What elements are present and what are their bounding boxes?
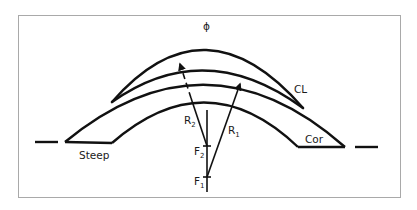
lens-cornea-diagram: ϕ CL Cor Steep R2 R1 F2 F1	[0, 0, 417, 210]
steep-base-line	[65, 142, 112, 143]
radius-2-label: R2	[184, 114, 196, 129]
radius-2-dashed-arrow	[180, 64, 191, 98]
phi-label: ϕ	[203, 20, 210, 32]
focus-1-label: F1	[194, 175, 205, 190]
focus-2-label: F2	[194, 145, 205, 160]
cornea-label: Cor	[305, 133, 324, 145]
radius-1-label: R1	[228, 124, 240, 139]
contact-lens-label: CL	[294, 83, 307, 95]
steep-label: Steep	[79, 149, 110, 161]
